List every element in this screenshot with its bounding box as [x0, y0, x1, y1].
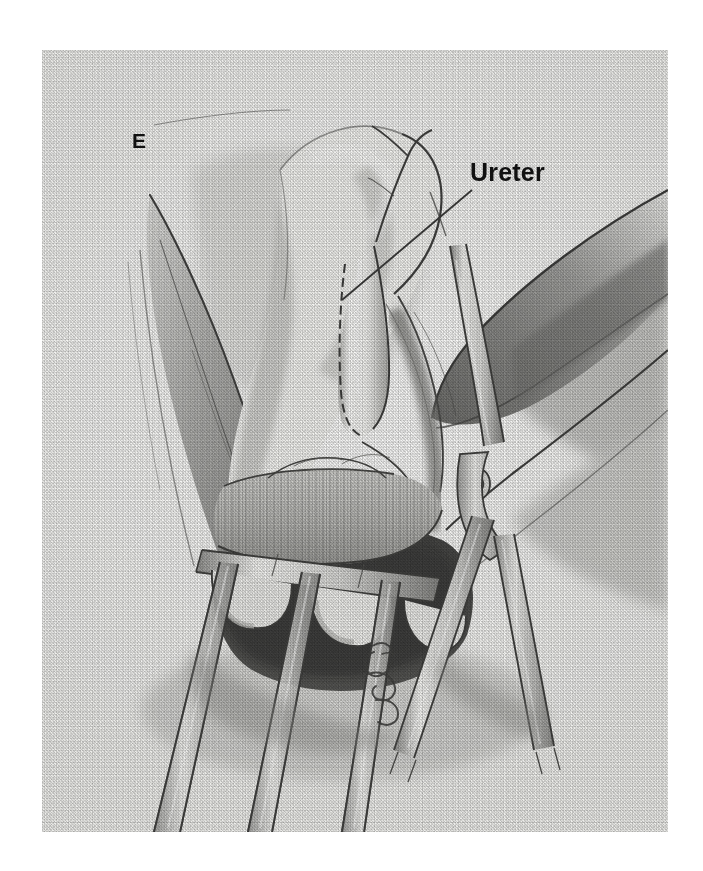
ureter-label: Ureter: [470, 160, 545, 185]
illustration-plate: E Ureter: [42, 50, 668, 832]
surgical-drawing: [42, 50, 668, 832]
panel-letter-label: E: [132, 130, 146, 151]
figure-page: E Ureter: [0, 0, 703, 871]
